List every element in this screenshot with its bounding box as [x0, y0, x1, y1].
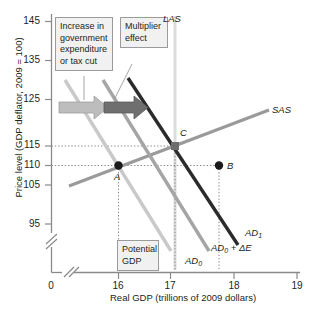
point-a-label: A [114, 172, 120, 182]
ad0-label-subscript: 0 [198, 260, 202, 267]
potential-gdp-callout: PotentialGDP [117, 240, 159, 271]
x-tick-16: 16 [106, 281, 130, 291]
point-c-marker [171, 142, 179, 150]
ad1-curve [128, 78, 238, 245]
las-label: LAS [163, 14, 181, 24]
potential-gdp-line1: Potential [122, 244, 157, 254]
x-axis-title: Real GDP (trillions of 2009 dollars) [110, 292, 256, 303]
point-c-label: C [180, 128, 187, 138]
ad0-de-label-rest: + ΔE [228, 242, 252, 253]
shift-arrow-light [59, 96, 108, 119]
ad0-plus-delta-e-label: AD0 + ΔE [211, 243, 252, 254]
point-a-marker [114, 161, 122, 169]
multiplier-effect-callout: Multiplier effect [120, 17, 168, 48]
ad1-label-text: AD [245, 227, 258, 238]
sas-curve [69, 110, 269, 186]
x-tick-0: 0 [39, 281, 63, 291]
y-tick-145: 145 [14, 16, 40, 26]
x-tick-18: 18 [222, 281, 246, 291]
figure-container: 145 135 125 115 110 105 95 0 16 17 18 19… [0, 0, 310, 314]
x-tick-19: 19 [285, 281, 309, 291]
ad0-de-label-text: AD [211, 242, 224, 253]
y-tick-marks [45, 22, 52, 225]
point-b-marker [215, 161, 223, 169]
sas-label: SAS [272, 105, 291, 115]
ad0-label-text: AD [185, 255, 198, 266]
x-tick-17: 17 [158, 281, 182, 291]
y-tick-95: 95 [14, 219, 40, 229]
ad1-label: AD1 [245, 228, 262, 239]
point-b-label: B [227, 161, 233, 171]
ad0-label: AD0 [185, 256, 202, 267]
ad1-label-subscript: 1 [258, 232, 262, 239]
potential-gdp-line2: GDP [122, 256, 142, 266]
y-axis-title: Price level (GDP deflator, 2009 = 100) [13, 38, 24, 198]
fiscal-policy-callout: Increase in government expenditure or ta… [55, 17, 113, 71]
x-tick-marks [119, 273, 298, 280]
